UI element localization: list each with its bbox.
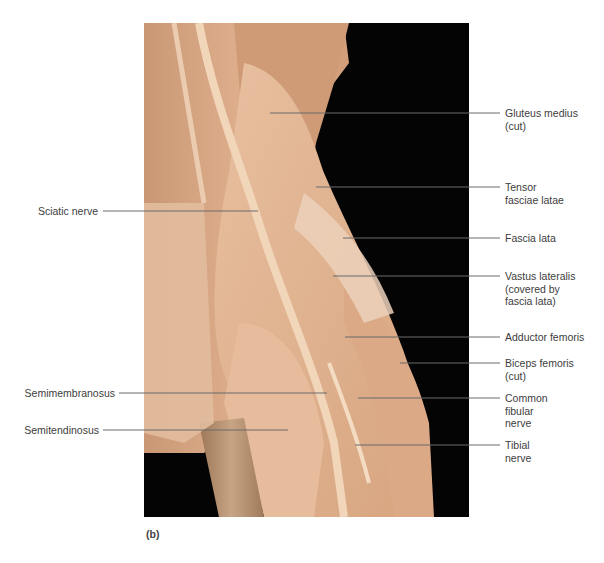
label-tibial-nerve: Tibial nerve bbox=[505, 439, 531, 464]
label-semimembranosus: Semimembranosus bbox=[0, 387, 115, 400]
label-biceps-femoris: Biceps femoris (cut) bbox=[505, 357, 574, 382]
label-common-fibular-nerve: Common fibular nerve bbox=[505, 392, 548, 430]
panel-letter: (b) bbox=[146, 528, 159, 540]
label-vastus-lateralis: Vastus lateralis (covered by fascia lata… bbox=[505, 270, 575, 308]
label-semitendinosus: Semitendinosus bbox=[0, 424, 99, 437]
dissection-photo bbox=[144, 23, 469, 517]
dissection-illustration bbox=[144, 23, 469, 517]
label-gluteus-medius: Gluteus medius (cut) bbox=[505, 107, 578, 132]
label-fascia-lata: Fascia lata bbox=[505, 232, 556, 245]
label-sciatic-nerve: Sciatic nerve bbox=[0, 205, 98, 218]
label-adductor-femoris: Adductor femoris bbox=[505, 331, 584, 344]
label-tensor-fasciae-latae: Tensor fasciae latae bbox=[505, 181, 564, 206]
spinal-tissue bbox=[144, 203, 214, 443]
